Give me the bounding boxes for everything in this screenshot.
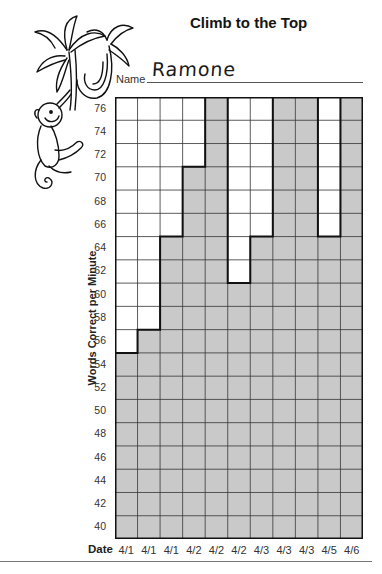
bar-8 — [273, 97, 296, 539]
chart-title: Climb to the Top — [190, 14, 307, 31]
x-tick-label: 4/3 — [295, 544, 318, 556]
bar-10 — [318, 237, 341, 539]
y-tick-label: 76 — [76, 102, 106, 114]
x-tick-label: 4/2 — [183, 544, 206, 556]
bar-9 — [295, 97, 318, 539]
bar-chart-grid — [115, 97, 363, 539]
x-tick-label: 4/3 — [273, 544, 296, 556]
y-tick-label: 72 — [76, 148, 106, 160]
bar-11 — [340, 97, 363, 539]
page-divider — [0, 561, 372, 562]
x-tick-label: 4/5 — [318, 544, 341, 556]
bar-5 — [205, 97, 228, 539]
bar-3 — [160, 237, 183, 539]
name-underline — [147, 82, 363, 83]
y-tick-label: 48 — [76, 427, 106, 439]
y-tick-label: 50 — [76, 404, 106, 416]
y-tick-label: 58 — [76, 311, 106, 323]
y-tick-label: 54 — [76, 358, 106, 370]
y-tick-label: 68 — [76, 195, 106, 207]
x-tick-label: 4/6 — [340, 544, 363, 556]
y-tick-label: 60 — [76, 288, 106, 300]
y-tick-label: 56 — [76, 334, 106, 346]
y-tick-label: 62 — [76, 264, 106, 276]
x-axis-title: Date — [88, 543, 113, 555]
y-tick-label: 40 — [76, 520, 106, 532]
x-tick-label: 4/1 — [138, 544, 161, 556]
x-tick-label: 4/2 — [228, 544, 251, 556]
bar-6 — [228, 283, 251, 539]
y-tick-label: 74 — [76, 125, 106, 137]
y-tick-label: 64 — [76, 241, 106, 253]
y-tick-label: 52 — [76, 381, 106, 393]
y-tick-label: 70 — [76, 171, 106, 183]
y-tick-label: 44 — [76, 474, 106, 486]
name-label: Name — [116, 73, 145, 85]
bar-7 — [250, 237, 273, 539]
y-tick-label: 66 — [76, 218, 106, 230]
student-name: Ramone — [151, 58, 237, 80]
x-tick-label: 4/1 — [115, 544, 138, 556]
x-tick-label: 4/3 — [250, 544, 273, 556]
x-tick-label: 4/1 — [160, 544, 183, 556]
y-tick-label: 46 — [76, 451, 106, 463]
bar-2 — [138, 330, 161, 539]
x-tick-label: 4/2 — [205, 544, 228, 556]
y-tick-label: 42 — [76, 497, 106, 509]
